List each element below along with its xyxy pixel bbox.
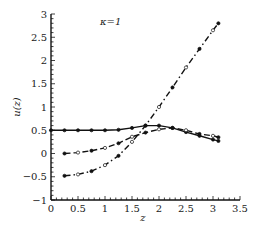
- y-tick-label: 2: [41, 55, 47, 66]
- series-dash-dot: [65, 23, 219, 176]
- x-tick-label: 3.5: [232, 203, 248, 214]
- x-tick-label: 0: [48, 203, 54, 214]
- data-point: [76, 129, 79, 132]
- y-tick-label: 2.5: [31, 32, 47, 43]
- data-point: [211, 134, 214, 137]
- data-point: [157, 128, 160, 131]
- line-chart: −1−0.500.511.522.5300.511.522.533.5 κ=1 …: [0, 0, 260, 235]
- data-point: [130, 135, 133, 138]
- plot-area: [49, 22, 220, 178]
- data-point: [144, 131, 147, 134]
- y-tick-label: −0.5: [23, 171, 47, 182]
- data-point: [157, 105, 160, 108]
- data-point: [130, 126, 133, 129]
- data-point: [90, 129, 93, 132]
- data-point: [198, 132, 201, 135]
- data-point: [157, 124, 160, 127]
- y-axis-label: u(z): [11, 97, 22, 117]
- data-point: [130, 140, 133, 143]
- data-point: [63, 129, 66, 132]
- x-tick-label: 2: [156, 203, 162, 214]
- y-tick-label: 1.5: [31, 78, 47, 89]
- y-tick-label: −1: [32, 195, 47, 206]
- data-point: [76, 151, 79, 154]
- data-point: [211, 138, 214, 141]
- data-point: [117, 128, 120, 131]
- data-point: [63, 174, 66, 177]
- data-point: [90, 149, 93, 152]
- data-point: [217, 22, 220, 25]
- data-point: [171, 86, 174, 89]
- x-tick-label: 1: [102, 203, 108, 214]
- data-point: [217, 136, 220, 139]
- x-tick-label: 2.5: [178, 203, 194, 214]
- data-point: [184, 66, 187, 69]
- data-point: [217, 139, 220, 142]
- data-point: [103, 129, 106, 132]
- y-tick-label: 0.5: [31, 125, 47, 136]
- x-tick-label: 1.5: [124, 203, 140, 214]
- data-point: [103, 146, 106, 149]
- data-point: [171, 126, 174, 129]
- data-point: [49, 129, 52, 132]
- series-dashed: [65, 128, 219, 154]
- data-point: [90, 170, 93, 173]
- data-point: [117, 142, 120, 145]
- data-point: [184, 129, 187, 132]
- axes: −1−0.500.511.522.5300.511.522.533.5: [23, 9, 248, 215]
- y-tick-label: 1: [41, 102, 47, 113]
- kappa-annotation: κ=1: [99, 16, 121, 27]
- data-point: [117, 154, 120, 157]
- data-point: [211, 29, 214, 32]
- data-point: [103, 164, 106, 167]
- x-axis-label: z: [139, 212, 146, 223]
- data-point: [144, 124, 147, 127]
- x-tick-label: 0.5: [70, 203, 86, 214]
- data-point: [198, 47, 201, 50]
- data-point: [76, 173, 79, 176]
- data-point: [63, 152, 66, 155]
- y-tick-label: 0: [41, 148, 47, 159]
- x-tick-label: 3: [210, 203, 216, 214]
- y-tick-label: 3: [41, 9, 47, 20]
